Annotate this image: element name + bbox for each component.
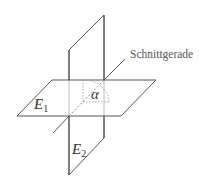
planes-diagram xyxy=(0,0,216,188)
plane-e2-label: E2 xyxy=(72,141,86,159)
plane-e1-label: E1 xyxy=(34,96,48,114)
angle-label: α xyxy=(91,86,99,103)
intersection-line-label: Schnittgerade xyxy=(130,48,193,60)
intersection-line xyxy=(104,59,125,80)
